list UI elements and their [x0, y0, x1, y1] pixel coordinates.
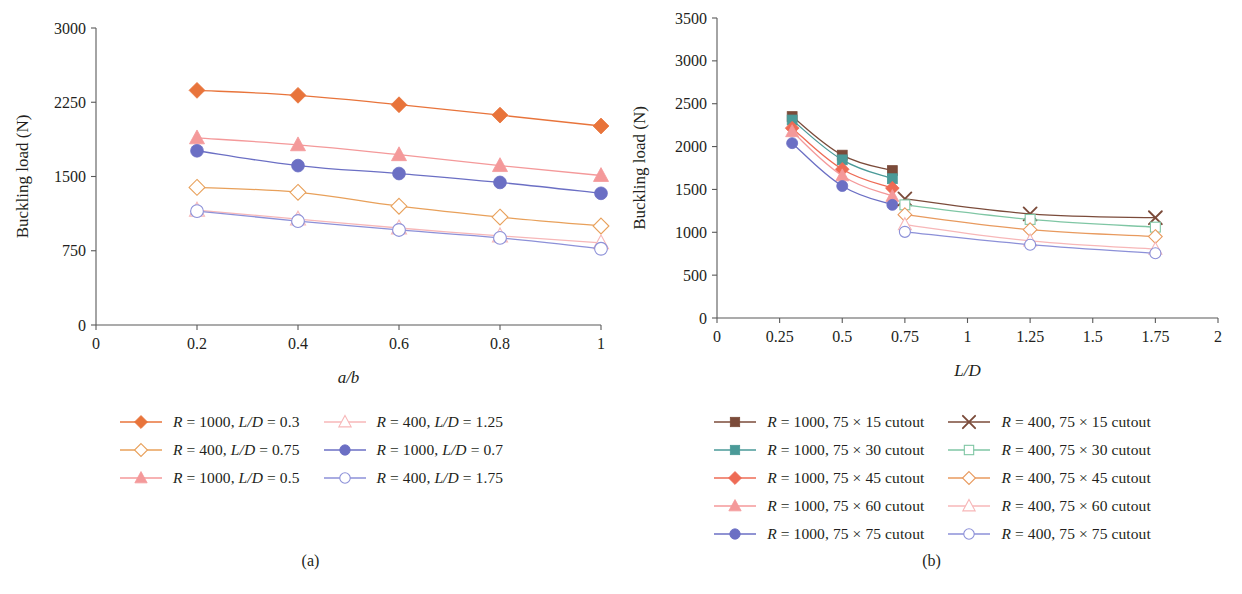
legend-item[interactable]: R = 400, L/D = 1.75	[322, 464, 504, 492]
data-point-marker	[189, 82, 205, 98]
plot-area-a: 075015002250300000.20.40.60.81Buckling l…	[0, 0, 621, 400]
y-axis-tick-label: 0	[78, 317, 86, 334]
legend-marker-icon	[118, 470, 164, 486]
data-series	[189, 82, 609, 133]
x-axis-tick-label: 0.25	[766, 328, 794, 345]
data-point-marker	[189, 130, 204, 144]
legend-column: R = 1000, L/D = 0.3R = 400, L/D = 0.75R …	[118, 408, 300, 492]
legend-item-label: R = 1000, 75 × 45 cutout	[767, 470, 924, 486]
series-group	[189, 82, 609, 255]
legend-item[interactable]: R = 1000, L/D = 0.3	[118, 408, 300, 436]
data-point-marker	[494, 232, 507, 245]
data-point-marker	[391, 97, 407, 113]
legend-item-label: R = 400, L/D = 1.75	[377, 470, 504, 486]
legend-item[interactable]: R = 1000, L/D = 0.7	[322, 436, 504, 464]
legend-item[interactable]: R = 1000, 75 × 30 cutout	[712, 436, 924, 464]
x-axis-tick-label: 0.75	[891, 328, 919, 345]
data-point-marker	[595, 187, 608, 200]
legend-point-marker	[731, 417, 740, 426]
x-axis-title: a/b	[338, 368, 360, 387]
data-point-marker	[593, 118, 609, 134]
y-axis-tick-label: 0	[699, 310, 707, 327]
legend-point-marker	[729, 500, 741, 511]
legend-item[interactable]: R = 400, 75 × 45 cutout	[946, 464, 1150, 492]
legend-item[interactable]: R = 1000, 75 × 60 cutout	[712, 492, 924, 520]
legend-point-marker	[730, 529, 740, 539]
legend-point-marker	[964, 529, 974, 539]
x-axis-tick-label: 0	[713, 328, 721, 345]
legend-item[interactable]: R = 400, 75 × 60 cutout	[946, 492, 1150, 520]
data-point-marker	[391, 198, 407, 214]
data-point-marker	[292, 159, 305, 172]
legend-item[interactable]: R = 400, 75 × 15 cutout	[946, 408, 1150, 436]
series-group	[785, 112, 1162, 259]
legend-marker-icon	[322, 442, 368, 458]
legend-item-label: R = 400, 75 × 15 cutout	[1001, 414, 1150, 430]
y-axis-tick-label: 1500	[54, 168, 86, 185]
legend-item[interactable]: R = 1000, 75 × 45 cutout	[712, 464, 924, 492]
legend-marker-icon	[946, 442, 992, 458]
legend-item-label: R = 400, 75 × 45 cutout	[1001, 470, 1150, 486]
x-axis-tick-label: 0	[92, 335, 100, 352]
legend-point-marker	[339, 473, 349, 483]
legend-column: R = 1000, 75 × 15 cutoutR = 1000, 75 × 3…	[712, 408, 924, 548]
data-point-marker	[887, 199, 898, 210]
legend-item-label: R = 1000, L/D = 0.3	[173, 414, 300, 430]
legend-point-marker	[963, 500, 975, 511]
data-point-marker	[1150, 248, 1161, 259]
data-point-marker	[292, 215, 305, 228]
data-point-marker	[899, 226, 910, 237]
data-point-marker	[492, 107, 508, 123]
figure-container: 075015002250300000.20.40.60.81Buckling l…	[0, 0, 1242, 594]
chart-svg-a: 075015002250300000.20.40.60.81Buckling l…	[0, 0, 621, 400]
legend-marker-icon	[118, 414, 164, 430]
legend-item[interactable]: R = 1000, 75 × 75 cutout	[712, 520, 924, 548]
data-point-marker	[290, 184, 306, 200]
legend-item-label: R = 1000, 75 × 30 cutout	[767, 442, 924, 458]
chart-legend-b: R = 1000, 75 × 15 cutoutR = 1000, 75 × 3…	[621, 408, 1242, 548]
x-axis-tick-label: 0.4	[288, 335, 308, 352]
legend-item[interactable]: R = 1000, L/D = 0.5	[118, 464, 300, 492]
legend-point-marker	[134, 444, 147, 457]
legend-point-marker	[731, 445, 740, 454]
legend-point-marker	[963, 472, 976, 485]
y-axis-tick-label: 2500	[675, 95, 707, 112]
y-axis-tick-label: 1500	[675, 181, 707, 198]
legend-marker-icon	[712, 526, 758, 542]
subfigure-caption-b: (b)	[621, 552, 1242, 570]
legend-point-marker	[135, 472, 147, 483]
y-axis-tick-label: 3000	[675, 52, 707, 69]
legend-marker-icon	[946, 470, 992, 486]
data-point-marker	[191, 205, 204, 218]
data-point-marker	[593, 218, 609, 234]
y-axis-tick-label: 750	[62, 242, 86, 259]
x-axis-tick-label: 1.5	[1083, 328, 1103, 345]
data-point-marker	[290, 87, 306, 103]
legend-item-label: R = 400, 75 × 60 cutout	[1001, 498, 1150, 514]
legend-item-label: R = 1000, 75 × 15 cutout	[767, 414, 924, 430]
legend-item-label: R = 1000, 75 × 75 cutout	[767, 526, 924, 542]
axes-group: 075015002250300000.20.40.60.81	[54, 20, 605, 353]
legend-item[interactable]: R = 400, L/D = 1.25	[322, 408, 504, 436]
x-axis-tick-label: 2	[1214, 328, 1222, 345]
x-axis-tick-label: 1.25	[1016, 328, 1044, 345]
legend-marker-icon	[322, 470, 368, 486]
data-point-marker	[595, 242, 608, 255]
chart-legend-a: R = 1000, L/D = 0.3R = 400, L/D = 0.75R …	[0, 408, 621, 492]
legend-point-marker	[134, 416, 147, 429]
legend-item[interactable]: R = 1000, 75 × 15 cutout	[712, 408, 924, 436]
x-axis-tick-label: 0.5	[832, 328, 852, 345]
legend-item-label: R = 400, 75 × 30 cutout	[1001, 442, 1150, 458]
y-axis-tick-label: 2000	[675, 138, 707, 155]
legend-item[interactable]: R = 400, L/D = 0.75	[118, 436, 300, 464]
y-axis-tick-label: 2250	[54, 94, 86, 111]
legend-point-marker	[729, 472, 742, 485]
legend-marker-icon	[946, 526, 992, 542]
legend-marker-icon	[712, 442, 758, 458]
chart-panel-b: 050010001500200025003000350000.250.50.75…	[621, 0, 1242, 594]
legend-item[interactable]: R = 400, 75 × 75 cutout	[946, 520, 1150, 548]
x-axis-tick-label: 0.8	[490, 335, 510, 352]
legend-item[interactable]: R = 400, 75 × 30 cutout	[946, 436, 1150, 464]
legend-marker-icon	[712, 498, 758, 514]
data-point-marker	[393, 167, 406, 180]
